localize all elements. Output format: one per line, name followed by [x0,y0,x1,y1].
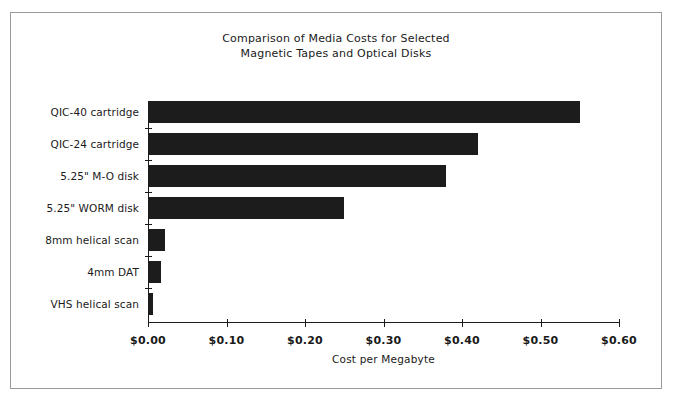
y-axis-tick [145,128,152,129]
bar-mo-disk[interactable] [148,165,446,187]
chart-title: Comparison of Media Costs for Selected M… [11,31,661,61]
x-axis-tick-label: $0.60 [601,334,637,347]
x-axis-tick [462,319,463,327]
bar-4mm-dat[interactable] [148,261,161,283]
x-axis-title: Cost per Megabyte [148,353,619,365]
bar-qic-40[interactable] [148,101,580,123]
bar-vhs-helical-scan[interactable] [148,293,153,315]
x-axis-tick-label: $0.30 [366,334,402,347]
category-label-mo-disk: 5.25" M-O disk [60,170,139,182]
x-axis-tick [384,319,385,327]
bar-qic-24[interactable] [148,133,478,155]
bar-worm-disk[interactable] [148,197,344,219]
category-label-4mm-dat: 4mm DAT [87,266,139,278]
y-axis-tick [145,224,152,225]
x-axis-tick [148,319,149,327]
x-axis-tick [541,319,542,327]
x-axis-tick-label: $0.50 [523,334,559,347]
chart-title-line-1: Comparison of Media Costs for Selected [11,31,661,46]
x-axis-tick [227,319,228,327]
category-label-vhs-helical-scan: VHS helical scan [51,298,139,310]
category-label-worm-disk: 5.25" WORM disk [46,202,139,214]
chart-title-line-2: Magnetic Tapes and Optical Disks [11,46,661,61]
x-axis-tick-label: $0.40 [444,334,480,347]
y-axis-tick [145,256,152,257]
y-axis-tick [145,160,152,161]
x-axis-tick-label: $0.20 [287,334,323,347]
category-label-qic-40: QIC-40 cartridge [51,106,139,118]
y-axis-tick [145,192,152,193]
y-axis-tick [145,288,152,289]
x-axis-tick-label: $0.10 [209,334,245,347]
x-axis-tick-label: $0.00 [130,334,166,347]
x-axis-tick [305,319,306,327]
x-axis-tick [619,319,620,327]
plot-area: QIC-40 cartridge QIC-24 cartridge 5.25" … [148,101,619,323]
category-label-8mm-helical-scan: 8mm helical scan [45,234,139,246]
bar-8mm-helical-scan[interactable] [148,229,165,251]
figure-frame: Comparison of Media Costs for Selected M… [10,12,662,389]
category-label-qic-24: QIC-24 cartridge [51,138,139,150]
